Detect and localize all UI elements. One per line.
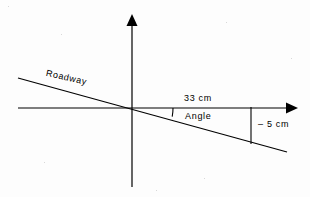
scan-speck [44, 162, 45, 163]
diagram-canvas [0, 0, 310, 197]
scan-speck [226, 22, 227, 23]
vertical-axis-arrowhead-icon [127, 14, 138, 26]
angle-arc-marker-icon [172, 108, 173, 117]
horizontal-axis [18, 103, 298, 114]
scan-speck [61, 34, 62, 35]
roadway-slope-diagram: Roadway 33 cm Angle – 5 cm [0, 0, 310, 197]
run-dimension-label: 33 cm [184, 94, 212, 103]
scan-speck [204, 178, 205, 179]
scan-speck [156, 190, 157, 191]
angle-label: Angle [185, 112, 212, 121]
scan-speck [8, 6, 9, 7]
rise-dimension-label: – 5 cm [258, 120, 289, 129]
vertical-axis [127, 14, 138, 187]
roadway-line [18, 78, 287, 152]
scan-speck [291, 58, 292, 59]
horizontal-axis-arrowhead-icon [286, 103, 298, 114]
